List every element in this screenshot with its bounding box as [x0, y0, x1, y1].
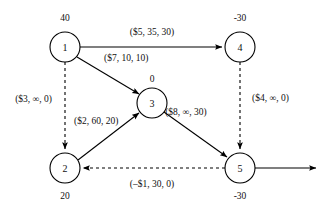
node-2-supply: 20: [60, 191, 70, 201]
node-4-supply: -30: [234, 13, 247, 23]
diagram-canvas: ($5, 35, 30) ($7, 10, 10) ($3, ∞, 0) ($2…: [0, 0, 330, 213]
node-3[interactable]: 3 0: [137, 74, 167, 118]
edge-1-2-label: ($3, ∞, 0): [15, 94, 52, 105]
node-5-label: 5: [238, 163, 243, 174]
node-3-label: 3: [150, 98, 155, 109]
edge-1-2: ($3, ∞, 0): [15, 62, 65, 149]
node-1-label: 1: [63, 42, 68, 53]
edge-4-5: ($4, ∞, 0): [240, 62, 289, 149]
edge-1-4-label: ($5, 35, 30): [130, 27, 174, 38]
node-2[interactable]: 2 20: [50, 153, 80, 201]
edge-3-5-line: [164, 112, 227, 157]
edge-2-3: ($2, 60, 20): [74, 113, 139, 160]
edge-1-3-label: ($7, 10, 10): [104, 53, 148, 64]
edge-4-5-label: ($4, ∞, 0): [252, 93, 289, 104]
node-1[interactable]: 1 40: [50, 13, 80, 62]
node-1-supply: 40: [60, 13, 70, 23]
node-3-supply: 0: [150, 74, 155, 84]
edge-3-5: ($8, ∞, 30): [164, 107, 227, 157]
network-flow-diagram: ($5, 35, 30) ($7, 10, 10) ($3, ∞, 0) ($2…: [0, 0, 330, 213]
edge-5-2-label: (–$1, 30, 0): [130, 179, 174, 190]
edge-3-5-label: ($8, ∞, 30): [165, 107, 207, 118]
node-5-supply: -30: [234, 191, 247, 201]
node-4-label: 4: [238, 42, 243, 53]
node-4[interactable]: 4 -30: [225, 13, 255, 62]
edge-1-4: ($5, 35, 30): [80, 27, 222, 47]
node-2-label: 2: [63, 163, 68, 174]
edge-5-2: (–$1, 30, 0): [83, 168, 225, 190]
edge-2-3-label: ($2, 60, 20): [74, 116, 118, 127]
node-5[interactable]: 5 -30: [225, 153, 255, 201]
edge-1-3: ($7, 10, 10): [77, 53, 148, 94]
